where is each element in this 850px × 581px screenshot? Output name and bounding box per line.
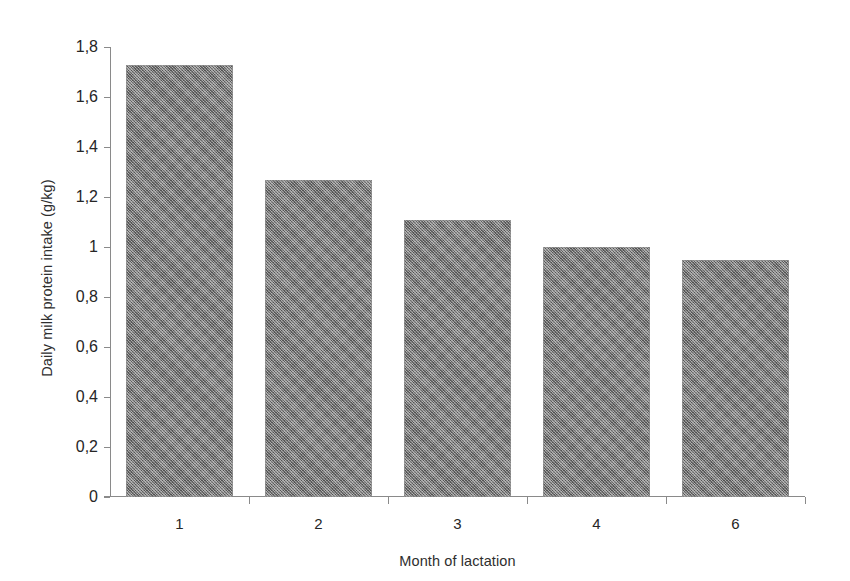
y-axis-tick-label: 1,6 bbox=[52, 89, 98, 105]
y-axis-tick-label: 1,8 bbox=[52, 39, 98, 55]
y-axis-tick-label: 1,2 bbox=[52, 189, 98, 205]
y-axis-tick-mark bbox=[104, 97, 110, 98]
x-axis-tick-label: 1 bbox=[110, 515, 249, 533]
bar bbox=[126, 65, 234, 498]
x-axis-tick-mark bbox=[388, 497, 389, 504]
y-axis-tick-mark bbox=[104, 447, 110, 448]
x-axis-tick-label: 3 bbox=[388, 515, 527, 533]
x-axis-tick-mark bbox=[527, 497, 528, 504]
y-axis-tick-label: 0,8 bbox=[52, 289, 98, 305]
bars-layer bbox=[110, 47, 805, 497]
y-axis-tick-label: 0,4 bbox=[52, 389, 98, 405]
x-axis-tick-labels: 12346 bbox=[110, 515, 805, 539]
y-axis-tick-labels: 00,20,40,60,811,21,41,61,8 bbox=[52, 0, 98, 581]
x-axis-tick-mark bbox=[249, 497, 250, 504]
y-axis-tick-mark bbox=[104, 197, 110, 198]
y-axis-tick-label: 0 bbox=[52, 489, 98, 505]
bar-chart: Daily milk protein intake (g/kg) 00,20,4… bbox=[0, 0, 850, 581]
y-axis-tick-mark bbox=[104, 347, 110, 348]
bar bbox=[543, 247, 651, 497]
y-axis-tick-mark bbox=[104, 147, 110, 148]
y-axis-tick-label: 0,2 bbox=[52, 439, 98, 455]
x-axis-tick-mark bbox=[666, 497, 667, 504]
x-axis-tick-mark bbox=[805, 497, 806, 504]
x-axis-tick-label: 2 bbox=[249, 515, 388, 533]
y-axis-tick-mark bbox=[104, 397, 110, 398]
x-axis-tick-label: 6 bbox=[666, 515, 805, 533]
x-axis-title: Month of lactation bbox=[110, 553, 805, 569]
plot-area bbox=[110, 47, 805, 497]
bar bbox=[404, 220, 512, 498]
y-axis-tick-mark bbox=[104, 497, 110, 498]
y-axis-tick-label: 1,4 bbox=[52, 139, 98, 155]
y-axis-tick-label: 1 bbox=[52, 239, 98, 255]
y-axis-tick-label: 0,6 bbox=[52, 339, 98, 355]
y-axis-tick-mark bbox=[104, 247, 110, 248]
bar bbox=[265, 180, 373, 498]
bar bbox=[682, 260, 790, 498]
y-axis-tick-mark bbox=[104, 47, 110, 48]
x-axis-tick-label: 4 bbox=[527, 515, 666, 533]
y-axis-tick-mark bbox=[104, 297, 110, 298]
